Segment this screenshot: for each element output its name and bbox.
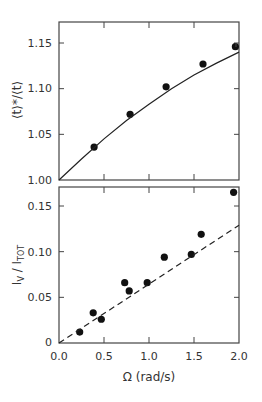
x-axis-label: Ω (rad/s)	[123, 370, 176, 384]
bottom-ytick-0: 0	[45, 336, 52, 349]
top-ytick-1-10: 1.10	[28, 82, 53, 95]
data-point	[126, 287, 133, 294]
data-point	[163, 83, 170, 90]
bottom-y-axis-label: IV / ITOT	[10, 245, 26, 285]
data-point	[198, 231, 205, 238]
bottom-panel	[59, 187, 239, 343]
bottom-ytick-0-15: 0.15	[28, 200, 53, 213]
chart-figure: 1.00 1.05 1.10 1.15 0 0.05 0.10 0.15 0.0…	[0, 0, 262, 402]
data-point	[98, 316, 105, 323]
top-ytick-1-00: 1.00	[28, 174, 53, 187]
bottom-y-tick-labels: 0 0.05 0.10 0.15	[28, 200, 53, 349]
top-ytick-1-15: 1.15	[28, 37, 53, 50]
plot-frame	[59, 187, 239, 343]
data-point	[121, 279, 128, 286]
ylabel-slash-I: / I	[10, 261, 24, 276]
top-ytick-1-05: 1.05	[28, 128, 53, 141]
xtick-1-5: 1.5	[185, 350, 203, 363]
plot-frame	[59, 22, 239, 180]
xtick-0-5: 0.5	[95, 350, 113, 363]
bottom-ytick-0-05: 0.05	[28, 291, 53, 304]
data-point	[199, 60, 206, 67]
top-panel	[59, 22, 239, 180]
data-point	[230, 189, 237, 196]
xtick-1-0: 1.0	[140, 350, 158, 363]
xtick-2-0: 2.0	[230, 350, 248, 363]
xtick-0-0: 0.0	[50, 350, 68, 363]
data-point	[161, 254, 168, 261]
x-tick-labels: 0.0 0.5 1.0 1.5 2.0	[50, 350, 248, 363]
ylabel-sub-tot: TOT	[17, 245, 26, 262]
bottom-ytick-0-10: 0.10	[28, 246, 53, 259]
data-point	[90, 309, 97, 316]
data-point	[232, 43, 239, 50]
top-y-tick-labels: 1.00 1.05 1.10 1.15	[28, 37, 53, 187]
top-y-axis-label: ⟨t⟩*/⟨t⟩	[10, 81, 24, 119]
fit-curve	[59, 52, 239, 180]
